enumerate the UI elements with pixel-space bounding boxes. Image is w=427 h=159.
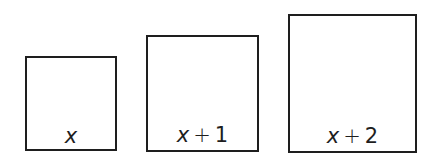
label-constant: 1 bbox=[215, 123, 228, 147]
label-variable: x bbox=[65, 124, 77, 148]
label-operator: + bbox=[339, 124, 365, 148]
square-x-plus-1: x+1 bbox=[146, 35, 259, 152]
square-x: x bbox=[25, 56, 117, 151]
square-label-x-plus-2: x+2 bbox=[290, 126, 415, 147]
square-label-x: x bbox=[27, 126, 115, 147]
label-operator: + bbox=[189, 123, 215, 147]
square-label-x-plus-1: x+1 bbox=[148, 125, 257, 146]
label-variable: x bbox=[327, 124, 339, 148]
label-constant: 2 bbox=[365, 124, 378, 148]
square-x-plus-2: x+2 bbox=[288, 14, 417, 153]
label-variable: x bbox=[177, 123, 189, 147]
